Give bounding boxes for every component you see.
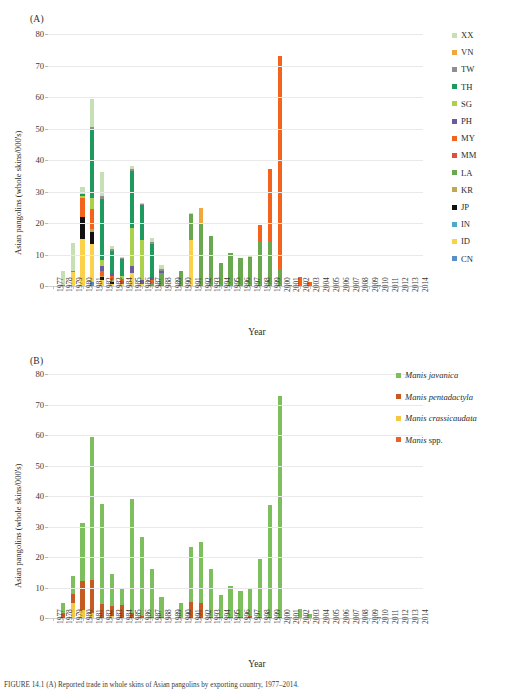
legend-item-manis-pentadactyla[interactable]: Manis pentadactyla — [396, 392, 473, 402]
legend-item-label: PH — [461, 116, 472, 126]
x-axis-tick-label: 2006 — [342, 277, 351, 292]
x-axis-tick-mark — [73, 618, 74, 621]
x-axis-tick-mark — [339, 618, 340, 621]
y-axis-tick-mark — [45, 34, 48, 35]
legend-item-la[interactable]: LA — [452, 168, 472, 178]
bar-segment — [110, 246, 114, 250]
x-axis-tick-mark — [290, 286, 291, 289]
bar-column[interactable] — [268, 505, 272, 618]
x-axis-tick-mark — [201, 286, 202, 289]
x-axis-tick-label: 2011 — [391, 609, 400, 624]
legend-item-manis-javanica[interactable]: Manis javanica — [396, 370, 458, 380]
x-axis-tick-label: 2007 — [352, 277, 361, 292]
x-axis-tick-mark — [132, 286, 133, 289]
x-axis-tick-label: 2006 — [342, 609, 351, 624]
x-axis-tick-label: 1984 — [125, 277, 134, 292]
bar-segment — [80, 196, 84, 198]
x-axis-tick-mark — [171, 286, 172, 289]
panel-a: (A) Asian pangolins (whole skins/000's) … — [0, 0, 514, 348]
x-axis-tick-mark — [63, 286, 64, 289]
bar-column[interactable] — [80, 187, 84, 286]
x-axis-tick-mark — [408, 618, 409, 621]
y-axis-tick-mark — [45, 255, 48, 256]
bar-segment — [268, 505, 272, 617]
x-axis-tick-label: 2001 — [292, 277, 301, 292]
legend-item-in[interactable]: IN — [452, 219, 470, 229]
gridline — [48, 496, 423, 497]
bar-column[interactable] — [268, 169, 272, 286]
legend-item-tw[interactable]: TW — [452, 64, 474, 74]
x-axis-tick-mark — [201, 618, 202, 621]
legend-swatch-icon — [452, 187, 457, 192]
x-axis-tick-label: 1977 — [56, 609, 65, 624]
legend-item-id[interactable]: ID — [452, 236, 470, 246]
bar-segment — [278, 396, 282, 617]
bar-segment — [110, 574, 114, 606]
legend-item-kr[interactable]: KR — [452, 185, 473, 195]
panel-b-plot-area: 0102030405060708019771978197919801981198… — [48, 374, 423, 618]
bar-segment — [71, 594, 75, 603]
panel-a-x-axis-label: Year — [0, 327, 514, 337]
bar-segment — [100, 196, 104, 199]
y-axis-tick-mark — [45, 405, 48, 406]
legend-swatch-icon — [452, 84, 457, 89]
bar-column[interactable] — [130, 166, 134, 286]
legend-swatch-icon — [452, 256, 457, 261]
legend-item-cn[interactable]: CN — [452, 254, 473, 264]
legend-item-th[interactable]: TH — [452, 82, 472, 92]
x-axis-tick-label: 1991 — [194, 277, 203, 292]
bar-column[interactable] — [278, 396, 282, 618]
x-axis-tick-label: 2014 — [421, 277, 430, 292]
legend-item-sg[interactable]: SG — [452, 99, 472, 109]
x-axis-tick-mark — [181, 286, 182, 289]
bar-column[interactable] — [100, 504, 104, 618]
x-axis-tick-mark — [418, 618, 419, 621]
bar-segment — [140, 537, 144, 616]
legend-item-my[interactable]: MY — [452, 133, 475, 143]
bar-column[interactable] — [278, 56, 282, 286]
legend-item-label: Manis javanica — [405, 370, 458, 380]
x-axis-tick-label: 2005 — [332, 277, 341, 292]
legend-item-label: MY — [461, 133, 475, 143]
gridline — [48, 405, 423, 406]
bar-column[interactable] — [80, 523, 84, 618]
bar-segment — [80, 523, 84, 581]
x-axis-tick-mark — [379, 618, 380, 621]
bar-column[interactable] — [199, 208, 203, 286]
legend-item-manis-crassicaudata[interactable]: Manis crassicaudata — [396, 413, 477, 423]
x-axis-tick-label: 2010 — [381, 609, 390, 624]
legend-item-ph[interactable]: PH — [452, 116, 472, 126]
x-axis-tick-label: 2000 — [283, 609, 292, 624]
x-axis-tick-label: 2008 — [361, 609, 370, 624]
legend-item-manis-spp[interactable]: Manis spp. — [396, 435, 443, 445]
y-axis-tick-mark — [45, 160, 48, 161]
legend-item-mm[interactable]: MM — [452, 150, 476, 160]
bar-column[interactable] — [140, 537, 144, 618]
x-axis-tick-label: 1998 — [263, 277, 272, 292]
bar-column[interactable] — [130, 499, 134, 618]
x-axis-tick-mark — [102, 618, 103, 621]
legend-item-label-suffix: spp. — [426, 435, 442, 445]
legend-item-xx[interactable]: XX — [452, 30, 473, 40]
x-axis-tick-label: 1983 — [115, 609, 124, 624]
legend-item-jp[interactable]: JP — [452, 202, 469, 212]
bar-column[interactable] — [140, 203, 144, 286]
bar-column[interactable] — [199, 542, 203, 618]
legend-item-vn[interactable]: VN — [452, 47, 473, 57]
x-axis-tick-mark — [388, 618, 389, 621]
y-axis-tick-mark — [45, 618, 48, 619]
y-axis-tick-mark — [45, 496, 48, 497]
bar-segment — [159, 269, 163, 271]
x-axis-tick-label: 1995 — [233, 277, 242, 292]
bar-segment — [150, 238, 154, 242]
x-axis-tick-mark — [300, 618, 301, 621]
x-axis-tick-mark — [250, 618, 251, 621]
gridline — [48, 466, 423, 467]
y-axis-tick-label: 50 — [35, 124, 44, 134]
x-axis-tick-mark — [112, 618, 113, 621]
x-axis-tick-mark — [142, 286, 143, 289]
x-axis-tick-label: 1994 — [223, 277, 232, 292]
x-axis-tick-mark — [349, 286, 350, 289]
legend-swatch-icon — [452, 222, 457, 227]
bar-column[interactable] — [100, 172, 104, 286]
